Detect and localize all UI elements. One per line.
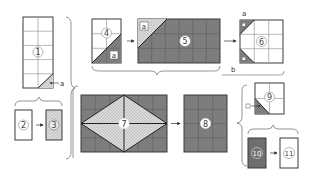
piece-10-label: 10: [253, 150, 262, 158]
label-b: b: [231, 66, 236, 74]
piece-5: a 5: [138, 19, 220, 63]
piece-4-label: 4: [104, 29, 109, 38]
brace-above-10-11: [248, 125, 298, 134]
brace-under-4-5: [92, 66, 220, 75]
brace-left-7: [73, 86, 78, 158]
brace-above-2-3: [15, 97, 62, 106]
piece-4-corner-label: a: [112, 52, 116, 60]
label-a-6: a: [242, 10, 246, 18]
piece-3: 3: [46, 110, 62, 140]
piece-9: 9: [255, 83, 284, 114]
label-a-1: a: [60, 80, 64, 88]
piece-2: 2: [15, 110, 32, 140]
piece-5-label: 5: [182, 37, 187, 46]
piece-6-label: 6: [259, 38, 264, 47]
piece-10: 10: [248, 138, 266, 168]
brace-left-9-11: [237, 85, 247, 166]
piece-8-label: 8: [203, 120, 208, 129]
piece-11: 11: [280, 138, 298, 168]
piece-1-label: 1: [35, 48, 40, 57]
piece-9-label: 9: [267, 93, 272, 102]
piece-3-label: 3: [51, 121, 56, 130]
label-a-9-box: [246, 104, 250, 108]
piece-5-corner-label: a: [142, 23, 146, 31]
piece-7-label: 7: [121, 120, 126, 129]
piece-8: 8: [184, 95, 227, 152]
piece-4: 4 a: [92, 19, 121, 63]
piece-7: 7: [81, 95, 167, 152]
quilt-diagram: 1 a 2 3 4 a: [0, 0, 310, 177]
piece-6: 6 a: [240, 10, 283, 63]
piece-2-label: 2: [21, 121, 26, 130]
piece-1: 1 a: [23, 17, 64, 88]
piece-11-label: 11: [285, 150, 294, 158]
